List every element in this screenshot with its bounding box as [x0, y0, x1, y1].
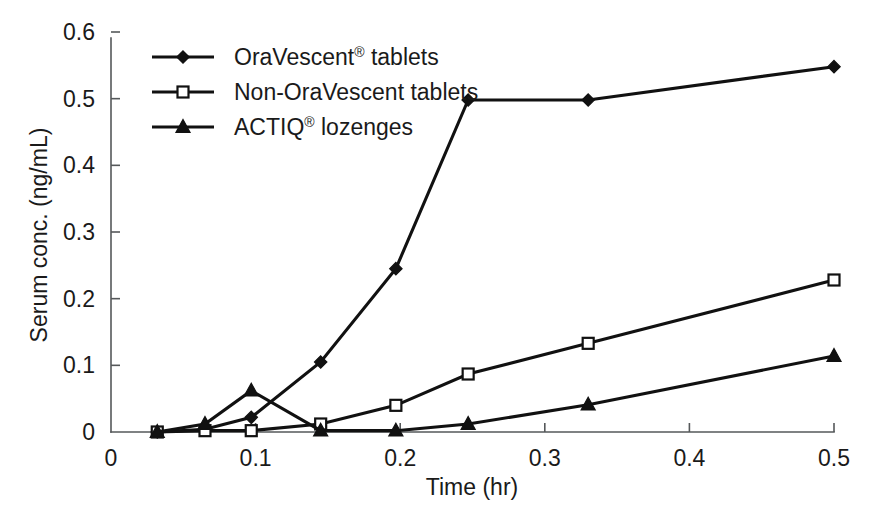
y-tick-label-0.5: 0.5: [63, 86, 95, 112]
data-point-s0-7: [828, 60, 840, 72]
x-axis-title: Time (hr): [426, 474, 518, 500]
y-tick-label-0.1: 0.1: [63, 352, 95, 378]
y-axis-ticks: [111, 32, 120, 365]
x-tick-label-0.5: 0.5: [818, 445, 850, 471]
y-tick-label-0: 0: [82, 419, 95, 445]
x-tick-label-0.3: 0.3: [529, 445, 561, 471]
x-tick-label-0.2: 0.2: [384, 445, 416, 471]
data-point-s0-6: [582, 94, 594, 106]
data-point-s1-2: [246, 425, 257, 436]
data-point-s1-6: [583, 338, 594, 349]
y-tick-label-0.6: 0.6: [63, 19, 95, 45]
pharmacokinetics-line-chart: 00.10.20.30.40.50.6 00.10.20.30.40.5 Ser…: [0, 0, 884, 512]
chart-canvas: 00.10.20.30.40.50.6 00.10.20.30.40.5 Ser…: [0, 0, 884, 512]
data-point-s1-7: [829, 275, 840, 286]
x-tick-label-0.4: 0.4: [673, 445, 705, 471]
legend-item-1: Non-OraVescent tablets: [152, 79, 478, 105]
legend-marker-filled-diamond: [177, 51, 189, 63]
legend-label-0: OraVescent® tablets: [234, 44, 439, 70]
legend-item-2: ACTIQ® lozenges: [152, 114, 413, 140]
y-tick-label-0.4: 0.4: [63, 152, 95, 178]
data-point-s2-1: [198, 417, 212, 430]
legend-item-0: OraVescent® tablets: [152, 44, 439, 70]
series-line-1: [157, 280, 834, 432]
series-2: [150, 349, 841, 438]
legend-label-2: ACTIQ® lozenges: [234, 114, 413, 140]
x-tick-label-0.1: 0.1: [240, 445, 272, 471]
data-point-s2-2: [244, 383, 258, 396]
y-tick-label-0.2: 0.2: [63, 286, 95, 312]
y-axis-title: Serum conc. (ng/mL): [26, 128, 52, 343]
x-axis-tick-labels: 00.10.20.30.40.5: [105, 445, 850, 471]
data-point-s1-4: [390, 400, 401, 411]
data-point-s1-5: [463, 369, 474, 380]
data-point-s2-7: [827, 349, 841, 362]
x-tick-label-0: 0: [105, 445, 118, 471]
chart-legend: OraVescent® tabletsNon-OraVescent tablet…: [152, 44, 478, 140]
legend-label-1: Non-OraVescent tablets: [234, 79, 478, 105]
y-tick-label-0.3: 0.3: [63, 219, 95, 245]
legend-marker-open-square: [178, 87, 189, 98]
y-axis-tick-labels: 00.10.20.30.40.50.6: [63, 19, 95, 445]
